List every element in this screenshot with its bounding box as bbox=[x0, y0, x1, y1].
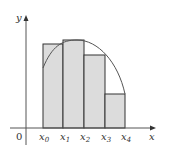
partition-label-1: x1 bbox=[60, 131, 70, 144]
partition-label-4: x4 bbox=[121, 131, 131, 144]
x-axis-label: x bbox=[149, 131, 155, 142]
rectangle-2 bbox=[63, 40, 84, 128]
x-axis-arrow-icon bbox=[150, 126, 156, 131]
rectangles bbox=[43, 40, 125, 128]
partition-label-0: x0 bbox=[39, 131, 50, 144]
partition-labels: x0 x1 x2 x3 x4 bbox=[39, 131, 131, 144]
origin-label: 0 bbox=[16, 131, 22, 142]
rectangle-4 bbox=[105, 94, 125, 128]
partition-label-3: x3 bbox=[101, 131, 112, 144]
y-axis-arrow-icon bbox=[24, 15, 29, 21]
y-axis-label: y bbox=[15, 12, 22, 23]
riemann-sum-diagram: y x 0 x0 x1 x2 x3 x4 bbox=[0, 0, 170, 148]
partition-label-2: x2 bbox=[80, 131, 91, 144]
rectangle-1 bbox=[43, 44, 63, 128]
rectangle-3 bbox=[84, 55, 105, 128]
